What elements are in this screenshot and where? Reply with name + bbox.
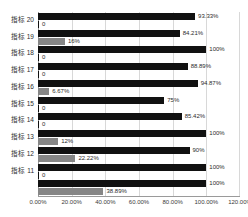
bar-value-label: 22.22%: [78, 155, 98, 162]
bar-value-label: 0: [42, 21, 45, 28]
bar-dark: [38, 63, 188, 70]
x-axis-tick-label: 0.00%: [29, 199, 46, 205]
bar-dark: [38, 13, 195, 20]
bar-group: 85.42%0: [38, 113, 240, 130]
x-axis-labels: 0.00%20.00%40.00%60.00%80.00%100.00%120.…: [0, 199, 248, 213]
y-axis-tick-label: 指标 17: [11, 64, 34, 74]
bar-dark: [38, 80, 198, 87]
y-axis-tick-label: 指标 18: [11, 47, 34, 57]
bar-group: 94.87%6.67%: [38, 80, 240, 97]
y-axis-tick-label: 指标 15: [11, 98, 34, 108]
bar-group: 75%0: [38, 97, 240, 114]
bar-value-label: 100%: [209, 164, 224, 171]
bar-dark: [38, 180, 206, 187]
bar-dark: [38, 147, 190, 154]
bar-value-label: 38.89%: [106, 188, 126, 195]
y-axis-tick-label: 指标 11: [11, 165, 34, 175]
bar-value-label: 88.89%: [191, 63, 211, 70]
x-axis-tick-label: 100.00%: [194, 199, 218, 205]
x-axis-tick-label: 40.00%: [95, 199, 115, 205]
y-axis-tick-label: 指标 12: [11, 148, 34, 158]
bar-value-label: 12%: [61, 138, 73, 145]
bar-dark: [38, 113, 182, 120]
bar-value-label: 93.33%: [198, 13, 218, 20]
bar-value-label: 75%: [167, 97, 179, 104]
bar-gray: [38, 88, 49, 95]
bar-group: 84.21%16%: [38, 30, 240, 47]
bar-dark: [38, 130, 206, 137]
bar-value-label: 90%: [193, 147, 205, 154]
bar-value-label: 100%: [209, 130, 224, 137]
bar-value-label: 0: [42, 121, 45, 128]
bar-value-label: 6.67%: [52, 88, 69, 95]
bar-dark: [38, 164, 206, 171]
y-axis-tick-label: 指标 20: [11, 14, 34, 24]
x-axis-tick-label: 120.00%: [228, 199, 248, 205]
bar-dark: [38, 30, 180, 37]
bar-value-label: 94.87%: [201, 80, 221, 87]
bar-chart: 指标 20指标 19指标 18指标 17指标 16指标 15指标 14指标 13…: [0, 0, 248, 217]
bar-group: 93.33%0: [38, 13, 240, 30]
y-axis-tick-label: 指标 19: [11, 31, 34, 41]
x-axis-tick-label: 20.00%: [61, 199, 81, 205]
bar-value-label: 0: [42, 105, 45, 112]
bar-gray: [38, 71, 39, 78]
bar-value-label: 0: [42, 71, 45, 78]
bar-gray: [38, 138, 58, 145]
y-axis-labels: 指标 20指标 19指标 18指标 17指标 16指标 15指标 14指标 13…: [0, 12, 36, 196]
bar-value-label: 100%: [209, 46, 224, 53]
bar-gray: [38, 172, 39, 179]
bar-gray: [38, 38, 65, 45]
bar-group: 100%0: [38, 164, 240, 181]
bar-group: 90%22.22%: [38, 147, 240, 164]
y-axis-tick-label: 指标 14: [11, 114, 34, 124]
bar-gray: [38, 155, 75, 162]
bars-layer: 93.33%084.21%16%100%088.89%094.87%6.67%7…: [38, 12, 240, 196]
bar-group: 100%0: [38, 46, 240, 63]
bar-value-label: 0: [42, 54, 45, 61]
bar-gray: [38, 105, 39, 112]
bar-gray: [38, 188, 103, 195]
bar-value-label: 0: [42, 172, 45, 179]
y-axis-tick-label: 指标 13: [11, 131, 34, 141]
bar-group: 100%38.89%: [38, 180, 240, 197]
bar-dark: [38, 46, 206, 53]
bar-value-label: 16%: [68, 38, 80, 45]
bar-gray: [38, 121, 39, 128]
bar-group: 100%12%: [38, 130, 240, 147]
bar-value-label: 84.21%: [183, 30, 203, 37]
bar-gray: [38, 21, 39, 28]
x-axis-tick-label: 80.00%: [162, 199, 182, 205]
bar-value-label: 85.42%: [185, 113, 205, 120]
y-axis-tick-label: 指标 16: [11, 81, 34, 91]
x-axis-tick-label: 60.00%: [129, 199, 149, 205]
bar-group: 88.89%0: [38, 63, 240, 80]
bar-dark: [38, 97, 164, 104]
bar-gray: [38, 54, 39, 61]
bar-value-label: 100%: [209, 180, 224, 187]
